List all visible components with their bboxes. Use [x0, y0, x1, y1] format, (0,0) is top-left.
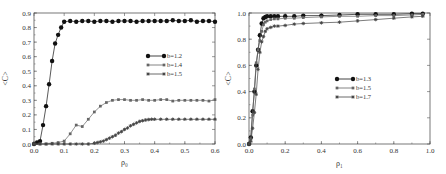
circle-marker [213, 20, 217, 24]
series-b=1.2 [32, 18, 217, 146]
star-marker [111, 135, 115, 139]
circle-marker [98, 19, 102, 23]
star-marker [302, 22, 306, 26]
star-marker [144, 118, 148, 122]
square-marker [214, 98, 217, 101]
y-axis-label: <C> [1, 71, 10, 86]
square-marker [147, 64, 150, 67]
legend-label: b=1.5 [356, 84, 371, 91]
legend-label: b=1.2 [167, 52, 182, 59]
circle-marker [104, 19, 108, 23]
star-marker [213, 117, 217, 121]
square-marker [129, 99, 132, 102]
square-marker [147, 99, 150, 102]
circle-marker [122, 19, 126, 23]
right-chart-panel: 0.00.20.40.60.81.00.00.20.40.60.81.0ρ₁<C… [224, 10, 435, 169]
star-marker [105, 138, 109, 142]
x-tick-label: 0.0 [30, 147, 39, 155]
square-marker [183, 99, 186, 102]
square-marker [293, 17, 296, 20]
square-marker [105, 101, 108, 104]
star-marker [114, 134, 118, 138]
circle-marker [41, 123, 45, 127]
star-marker [249, 140, 253, 144]
star-marker [120, 130, 124, 134]
star-marker [254, 92, 258, 96]
square-marker [159, 98, 162, 101]
star-marker [135, 121, 139, 125]
x-tick-label: 0.2 [281, 147, 290, 155]
circle-marker [146, 54, 150, 58]
star-marker [150, 117, 154, 121]
plot-frame [34, 13, 215, 144]
square-marker [165, 98, 168, 101]
x-tick-label: 0.0 [245, 147, 254, 155]
y-tick-label: 0.2 [237, 114, 246, 122]
star-marker [338, 20, 342, 24]
star-marker [153, 117, 157, 121]
square-marker [253, 88, 256, 91]
square-marker [255, 61, 258, 64]
circle-marker [134, 20, 138, 24]
square-marker [260, 30, 263, 33]
x-axis-label: ρ₀ [121, 158, 128, 167]
square-marker [338, 15, 341, 18]
star-marker [335, 95, 339, 99]
star-marker [159, 117, 163, 121]
legend-entry: b=1.5 [336, 84, 371, 91]
circle-marker [128, 19, 132, 23]
star-marker [56, 142, 60, 146]
circle-marker [47, 82, 51, 86]
x-tick-label: 0.1 [60, 147, 69, 155]
square-marker [87, 118, 90, 121]
square-marker [163, 64, 166, 67]
square-marker [273, 18, 276, 21]
plot-frame [249, 13, 430, 144]
x-tick-label: 0.6 [211, 147, 220, 155]
square-marker [99, 105, 102, 108]
square-marker [257, 48, 260, 51]
legend-label: b=1.5 [167, 70, 182, 77]
star-marker [260, 40, 264, 44]
circle-marker [335, 77, 339, 81]
star-marker [283, 24, 287, 28]
circle-marker [116, 19, 120, 23]
y-tick-label: 0.9 [22, 10, 31, 18]
circle-marker [50, 59, 54, 63]
star-marker [273, 24, 277, 28]
square-marker [352, 87, 355, 90]
star-marker [93, 142, 97, 146]
y-tick-label: 0.5 [22, 68, 31, 76]
y-tick-label: 0.8 [22, 24, 31, 32]
star-marker [269, 26, 273, 30]
star-marker [171, 117, 175, 121]
circle-marker [152, 19, 156, 23]
star-marker [38, 142, 42, 146]
square-marker [208, 100, 211, 103]
star-marker [247, 142, 251, 146]
star-marker [32, 142, 36, 146]
star-marker [183, 117, 187, 121]
x-tick-label: 0.2 [90, 147, 99, 155]
legend-label: b=1.3 [356, 75, 371, 82]
circle-marker [62, 20, 66, 24]
circle-marker [189, 18, 193, 22]
y-tick-label: 0.6 [22, 53, 31, 61]
square-marker [81, 125, 84, 128]
square-marker [262, 23, 265, 26]
x-tick-label: 0.3 [120, 147, 129, 155]
series-b=1.4 [33, 98, 217, 145]
circle-marker [159, 19, 163, 23]
square-marker [277, 18, 280, 21]
star-marker [146, 72, 150, 76]
square-marker [135, 99, 138, 102]
star-marker [50, 142, 54, 146]
circle-marker [201, 19, 205, 23]
circle-marker [177, 19, 181, 23]
x-tick-label: 1.0 [426, 147, 435, 155]
y-tick-label: 0.1 [22, 126, 31, 134]
y-axis-label: <C> [224, 71, 233, 86]
square-marker [266, 20, 269, 23]
circle-marker [195, 20, 199, 24]
y-tick-label: 0.4 [237, 88, 246, 96]
